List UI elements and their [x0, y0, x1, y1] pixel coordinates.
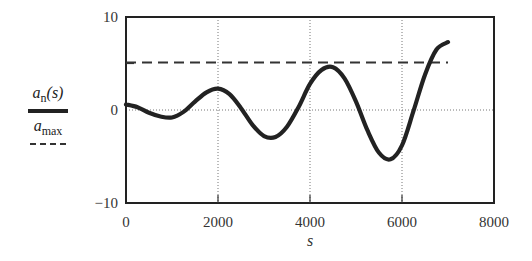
y-tick-label: −10: [95, 195, 118, 211]
legend-label-an: an(s): [26, 84, 70, 107]
x-tick-label: 8000: [479, 214, 509, 230]
legend-swatch-dashed: [30, 143, 66, 145]
x-tick-label: 6000: [387, 214, 417, 230]
x-axis-label: s: [307, 232, 313, 249]
legend-swatch-solid: [28, 109, 68, 113]
line-chart: 02000400060008000−10010 s: [0, 0, 532, 261]
legend: an(s) amax: [26, 84, 70, 145]
x-tick-label: 2000: [203, 214, 233, 230]
legend-label-amax: amax: [26, 117, 70, 140]
series-an-solid-line: [126, 42, 448, 159]
x-tick-label: 4000: [295, 214, 325, 230]
y-tick-label: 10: [103, 9, 118, 25]
y-tick-label: 0: [111, 102, 119, 118]
x-tick-label: 0: [122, 214, 130, 230]
